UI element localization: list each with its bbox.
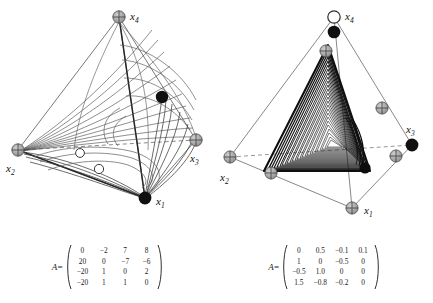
matrix-cell: 1 — [93, 277, 114, 288]
label-x2-right: x2 — [219, 171, 229, 186]
matrix-right-paren-close — [374, 244, 381, 289]
right-panel-svg: x4 x3 x2 x1 — [216, 0, 433, 230]
matrix-right-paren-open — [281, 244, 288, 289]
matrix-cell: 0 — [331, 267, 352, 278]
equilibrium-crosshair-x4x2-right — [320, 45, 332, 57]
matrix-cell: 0 — [72, 245, 93, 256]
matrix-cell: 1.0 — [310, 267, 331, 278]
label-x2-left: x2 — [5, 162, 15, 177]
matrix-row: 20 0 −7 −6 — [72, 256, 158, 267]
matrix-cell: 0.5 — [310, 245, 331, 256]
matrix-cell: 1 — [114, 277, 135, 288]
matrix-row: −20 1 0 2 — [72, 267, 158, 278]
label-x1-left: x1 — [155, 195, 165, 210]
vertex-marker-x2-right — [224, 151, 236, 163]
matrix-cell: −0.1 — [331, 245, 352, 256]
matrix-cell: −0.5 — [331, 256, 352, 267]
matrix-cell: −20 — [72, 277, 93, 288]
matrix-left-paren-open — [65, 244, 72, 289]
matrix-left-block: A= 0 −2 7 8 20 0 −7 −6 — [0, 230, 216, 303]
matrix-cell: 20 — [72, 256, 93, 267]
matrix-right-equals: = — [274, 262, 279, 272]
matrix-cell: 0 — [352, 277, 373, 288]
left-panel-svg: x4 x2 x3 x1 — [0, 0, 216, 230]
matrix-cell: 0 — [93, 256, 114, 267]
vertex-marker-x4-left — [113, 11, 125, 23]
equilibrium-crosshair-x4x3-right — [376, 102, 388, 114]
equilibrium-black-left — [156, 91, 168, 103]
label-x4-right: x4 — [344, 10, 354, 25]
matrix-right-table: 0 0.5 −0.1 0.1 1 0 −0.5 0 −0.5 1.0 0 — [288, 245, 374, 287]
vertex-marker-x4-right — [328, 11, 340, 23]
matrix-cell: −7 — [114, 256, 135, 267]
matrix-row: A= 0 −2 7 8 20 0 −7 −6 — [0, 230, 433, 303]
matrix-left-label: A= — [52, 262, 63, 272]
matrix-cell: −6 — [136, 256, 157, 267]
matrix-cell: 0 — [136, 277, 157, 288]
matrix-left-paren-close — [157, 244, 164, 289]
label-x3-left: x3 — [189, 152, 199, 167]
matrix-row: 1.5 −0.8 −0.2 0 — [288, 277, 374, 288]
matrix-cell: −20 — [72, 267, 93, 278]
matrix-cell: 2 — [136, 267, 157, 278]
equilibrium-crosshair-x3x1-right — [390, 150, 402, 162]
matrix-row: 1 0 −0.5 0 — [288, 256, 374, 267]
equilibrium-open-left-a — [76, 149, 85, 158]
matrix-row: −20 1 1 0 — [72, 277, 158, 288]
label-x4-left: x4 — [129, 10, 139, 25]
interior-orbits-left — [34, 108, 159, 190]
figure-container: x4 x2 x3 x1 — [0, 0, 433, 303]
vertex-marker-x1-left — [139, 192, 152, 205]
phase-portrait-right: x4 x3 x2 x1 — [216, 0, 432, 230]
matrix-cell: 7 — [114, 245, 135, 256]
matrix-cell: −0.5 — [288, 267, 309, 278]
matrix-cell: 0 — [352, 267, 373, 278]
matrix-cell: −0.8 — [310, 277, 331, 288]
matrix-cell: 0 — [114, 267, 135, 278]
matrix-cell: 0 — [352, 256, 373, 267]
matrix-cell: 1 — [288, 256, 309, 267]
label-x1-right: x1 — [363, 204, 373, 219]
chaotic-attractor-right — [268, 49, 368, 170]
trajectory-bundle-left — [20, 30, 195, 151]
vertex-marker-x3-right — [406, 139, 419, 152]
vertex-marker-x3-left — [190, 134, 202, 146]
matrix-cell: 1 — [93, 267, 114, 278]
equilibrium-black-below-x4-right — [328, 26, 341, 39]
matrix-cell: 0.1 — [352, 245, 373, 256]
matrix-cell: 0 — [310, 256, 331, 267]
matrix-right-label: A= — [268, 262, 279, 272]
vertex-marker-x2-left — [12, 144, 24, 156]
matrix-cell: 1.5 — [288, 277, 309, 288]
foreground-edges-left — [18, 17, 145, 198]
tetrahedron-edges-left — [18, 17, 196, 198]
matrix-right-block: A= 0 0.5 −0.1 0.1 1 0 −0.5 — [216, 230, 433, 303]
matrix-left-table: 0 −2 7 8 20 0 −7 −6 −20 1 0 — [72, 245, 158, 287]
matrix-cell: −0.2 — [331, 277, 352, 288]
attractor-corner-node-right — [359, 162, 370, 173]
equilibrium-open-left-b — [94, 164, 103, 173]
matrix-cell: −2 — [93, 245, 114, 256]
matrix-row: −0.5 1.0 0 0 — [288, 267, 374, 278]
phase-portrait-left: x4 x2 x3 x1 — [0, 0, 216, 230]
vertex-marker-x1-right — [346, 202, 358, 214]
matrix-cell: 0 — [288, 245, 309, 256]
equilibrium-crosshair-x2x1-right — [265, 167, 277, 179]
matrix-row: 0 −2 7 8 — [72, 245, 158, 256]
matrix-row: 0 0.5 −0.1 0.1 — [288, 245, 374, 256]
matrix-left-equals: = — [57, 262, 62, 272]
matrix-cell: 8 — [136, 245, 157, 256]
